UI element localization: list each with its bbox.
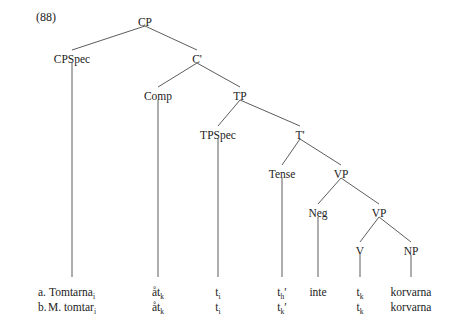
- tree-branch-cp-cbar: [145, 26, 197, 50]
- tree-node-comp: Comp: [144, 90, 172, 103]
- tree-branch-vp1-neg: [318, 178, 341, 204]
- terminal-v-rowb: tk: [357, 301, 364, 313]
- terminal-tense-rowb: tk′: [277, 301, 286, 313]
- tree-canvas: CPCPSpecC'CompTPTPSpecT'TenseVPNegVPVNP: [0, 0, 454, 328]
- tree-node-labels: CPCPSpecC'CompTPTPSpecT'TenseVPNegVPVNP: [54, 16, 419, 257]
- terminal-np-rowa: korvarna: [391, 286, 432, 298]
- tree-branch-cbar-tp: [197, 63, 240, 87]
- tree-node-vp2: VP: [372, 207, 387, 219]
- terminal-neg-rowa: inte: [309, 286, 326, 298]
- tree-node-vp1: VP: [334, 168, 349, 180]
- tree-branch-tbar-tense: [282, 139, 300, 165]
- terminal-np-rowb: korvarna: [391, 301, 432, 313]
- tree-branch-cp-cpspec: [72, 26, 145, 50]
- terminal-tpspec-rowb: ti: [215, 301, 220, 313]
- tree-edges: [72, 26, 411, 242]
- tree-node-neg: Neg: [308, 207, 327, 220]
- terminal-tpspec-rowa: ti: [215, 286, 220, 298]
- terminal-comp-rowb: åtk: [152, 301, 164, 313]
- tree-node-cpspec: CPSpec: [54, 53, 90, 66]
- terminal-v-rowa: tk: [357, 286, 364, 298]
- row-marker-a: a.: [38, 286, 46, 298]
- tree-branch-cbar-comp: [158, 63, 197, 87]
- tree-node-tpspec: TPSpec: [200, 129, 236, 142]
- terminal-tense-rowa: th′: [277, 286, 286, 298]
- tree-node-v: V: [356, 245, 365, 257]
- tree-branch-vp2-np: [379, 217, 411, 242]
- tree-branch-tbar-vp1: [300, 139, 341, 165]
- tree-node-cbar: C': [192, 53, 202, 65]
- row-marker-b: b.: [38, 301, 47, 313]
- terminal-cpspec-rowa: Tomtarnai: [49, 286, 95, 298]
- terminal-cpspec-rowb: M. tomtari: [48, 301, 96, 313]
- tree-branch-vp2-v: [360, 217, 379, 242]
- tree-branch-tp-tbar: [240, 100, 300, 126]
- tree-node-cp: CP: [138, 16, 152, 28]
- tree-node-tp: TP: [233, 90, 246, 102]
- terminal-comp-rowa: åtk: [152, 286, 164, 298]
- tree-node-np: NP: [404, 245, 419, 257]
- tree-node-tense: Tense: [269, 168, 296, 180]
- tree-branch-vp1-vp2: [341, 178, 379, 204]
- tree-node-tbar: T': [295, 129, 304, 141]
- tree-branch-tp-tpspec: [218, 100, 240, 126]
- syntax-tree-figure: (88) CPCPSpecC'CompTPTPSpecT'TenseVPNegV…: [0, 0, 454, 328]
